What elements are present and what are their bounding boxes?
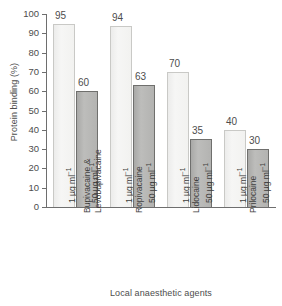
y-tick-label: 0 xyxy=(0,202,39,212)
y-tick-mark xyxy=(42,207,47,208)
x-axis-line xyxy=(46,207,276,208)
y-tick-label: 100 xyxy=(0,9,39,19)
category-label-2: Lidocaine xyxy=(191,177,202,213)
y-axis-title: Protein binding (%) xyxy=(9,22,19,182)
bar-value-label: 70 xyxy=(169,59,180,69)
bar-value-label: 40 xyxy=(226,117,237,127)
plot-area: 951 µg ml−16050 µg ml−1941 µg ml−16350 µ… xyxy=(46,14,276,207)
bar-value-label: 95 xyxy=(55,11,66,21)
y-tick-label: 30 xyxy=(0,144,39,154)
bar-value-label: 94 xyxy=(112,13,123,23)
y-tick-label: 80 xyxy=(0,48,39,58)
bar-value-label: 30 xyxy=(249,136,260,146)
y-tick-label: 10 xyxy=(0,183,39,193)
category-label-0: Bupivacaine &Levobupivacaine xyxy=(82,149,103,213)
bar-value-label: 35 xyxy=(192,126,203,136)
y-tick-label: 70 xyxy=(0,67,39,77)
bar-dose-label: 50 µg ml−1 xyxy=(205,163,214,203)
category-label-1: Ropivacaine xyxy=(134,166,145,213)
bar-value-label: 63 xyxy=(135,72,146,82)
bar-dose-label: 50 µg ml−1 xyxy=(262,163,271,203)
y-tick-label: 60 xyxy=(0,86,39,96)
category-label-3: Prilocaine xyxy=(248,176,259,213)
y-tick-label: 90 xyxy=(0,28,39,38)
y-tick-label: 40 xyxy=(0,125,39,135)
x-axis-title: Local anaesthetic agents xyxy=(46,288,276,298)
bar-dose-label: 50 µg ml−1 xyxy=(148,163,157,203)
y-tick-label: 50 xyxy=(0,106,39,116)
bar-value-label: 60 xyxy=(78,78,89,88)
y-tick-label: 20 xyxy=(0,163,39,173)
protein-binding-bar-chart: Protein binding (%) 10090807060504030201… xyxy=(0,0,282,306)
